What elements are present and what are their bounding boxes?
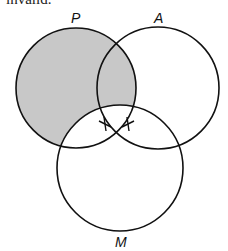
label-m: M	[115, 234, 127, 250]
circle-m	[57, 105, 183, 231]
venn-diagram: P A M	[0, 0, 228, 251]
label-a: A	[153, 10, 163, 26]
label-p: P	[71, 10, 81, 26]
